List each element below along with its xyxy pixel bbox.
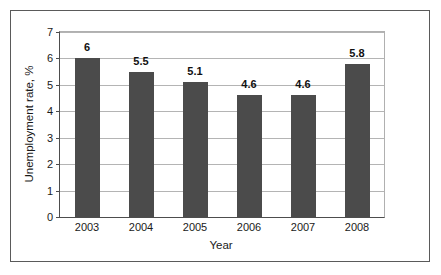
gridline <box>60 58 384 59</box>
bar-value-label: 4.6 <box>295 79 310 90</box>
y-axis-tick-label: 7 <box>47 27 53 38</box>
y-axis-tick-label: 5 <box>47 79 53 90</box>
gridline <box>60 111 384 112</box>
y-axis-tick-mark <box>56 191 60 192</box>
y-axis-tick-label: 4 <box>47 106 53 117</box>
y-axis-tick-label: 3 <box>47 132 53 143</box>
y-axis-tick-label: 1 <box>47 185 53 196</box>
y-axis-tick-label: 6 <box>47 53 53 64</box>
y-axis-tick-mark <box>56 111 60 112</box>
bar-value-label: 5.8 <box>349 48 364 59</box>
y-axis-tick-label: 0 <box>47 212 53 223</box>
bar[interactable] <box>237 95 262 217</box>
plot-area: 01234567620035.520045.120054.620064.6200… <box>59 31 385 218</box>
y-axis-tick-mark <box>56 164 60 165</box>
gridline <box>60 164 384 165</box>
bar[interactable] <box>129 72 154 217</box>
x-axis-tick-label: 2004 <box>129 222 153 233</box>
x-axis-tick-label: 2007 <box>291 222 315 233</box>
y-axis-tick-mark <box>56 58 60 59</box>
bar-value-label: 6 <box>84 42 90 53</box>
x-axis-tick-label: 2008 <box>345 222 369 233</box>
y-axis-tick-mark <box>56 138 60 139</box>
bar-value-label: 4.6 <box>241 79 256 90</box>
bar[interactable] <box>183 82 208 217</box>
y-axis-title: Unemployment rate, % <box>22 31 36 216</box>
y-axis-tick-mark <box>56 85 60 86</box>
y-axis-tick-label: 2 <box>47 159 53 170</box>
x-axis-title: Year <box>59 239 383 251</box>
gridline <box>60 138 384 139</box>
x-axis-tick-label: 2003 <box>75 222 99 233</box>
x-axis-tick-label: 2005 <box>183 222 207 233</box>
y-axis-title-text: Unemployment rate, % <box>23 65 35 182</box>
x-axis-tick-label: 2006 <box>237 222 261 233</box>
bar[interactable] <box>75 58 100 217</box>
bar-value-label: 5.1 <box>187 66 202 77</box>
gridline <box>60 32 384 33</box>
y-axis-tick-mark <box>56 32 60 33</box>
y-axis-tick-mark <box>56 217 60 218</box>
bar[interactable] <box>345 64 370 217</box>
x-axis-title-text: Year <box>209 239 232 251</box>
gridline <box>60 85 384 86</box>
bar-value-label: 5.5 <box>133 56 148 67</box>
bar[interactable] <box>291 95 316 217</box>
gridline <box>60 191 384 192</box>
chart-frame: Unemployment rate, % 01234567620035.5200… <box>10 10 430 262</box>
